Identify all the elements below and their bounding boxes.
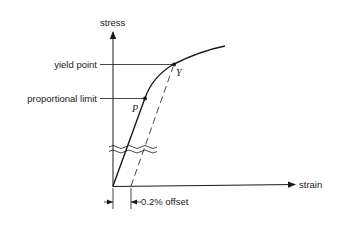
point-label-p: P <box>131 103 138 114</box>
stress-axis-label: stress <box>100 17 126 28</box>
offset-label: 0.2% offset <box>141 196 189 207</box>
offset-dimension <box>104 188 141 209</box>
proportional-limit-point <box>143 97 147 101</box>
yield-point-marker <box>172 63 176 67</box>
yield-point-label: yield point <box>54 59 97 70</box>
point-label-y: Y <box>176 67 183 78</box>
strain-axis <box>113 185 295 187</box>
stress-strain-diagram: stress strain yield point proportional l… <box>0 0 337 225</box>
strain-axis-label: strain <box>299 179 322 190</box>
proportional-limit-label: proportional limit <box>27 93 97 104</box>
stress-strain-curve <box>113 46 225 186</box>
